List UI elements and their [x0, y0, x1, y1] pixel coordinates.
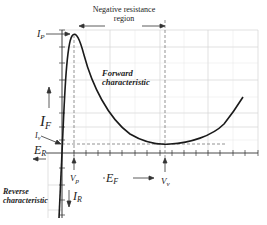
iv-label: Iv: [34, 131, 41, 141]
er-label: ER: [33, 143, 46, 158]
tunnel-diode-characteristic-diagram: Negative resistance region IP IF Forward…: [0, 0, 267, 225]
forward-characteristic-curve: [62, 34, 243, 153]
negative-resistance-label: Negative resistance: [93, 5, 156, 14]
arrows: [33, 24, 167, 207]
iv-arrow: [41, 136, 58, 143]
axes: [46, 30, 258, 218]
negative-resistance-label-line2: region: [114, 14, 134, 23]
ip-label: IP: [36, 28, 45, 41]
reference-lines: [62, 20, 225, 160]
reverse-characteristic-label: Reverse: [2, 187, 29, 196]
vp-label: Vp: [70, 173, 80, 185]
ef-label: EF: [105, 171, 118, 186]
if-label: IF: [39, 113, 52, 131]
grid: [48, 30, 258, 218]
reverse-characteristic-label-line2: characteristic: [3, 196, 48, 205]
forward-characteristic-label-line2: characteristic: [102, 77, 150, 87]
vv-label: Vv: [161, 176, 171, 188]
ir-label: IR: [72, 189, 82, 204]
